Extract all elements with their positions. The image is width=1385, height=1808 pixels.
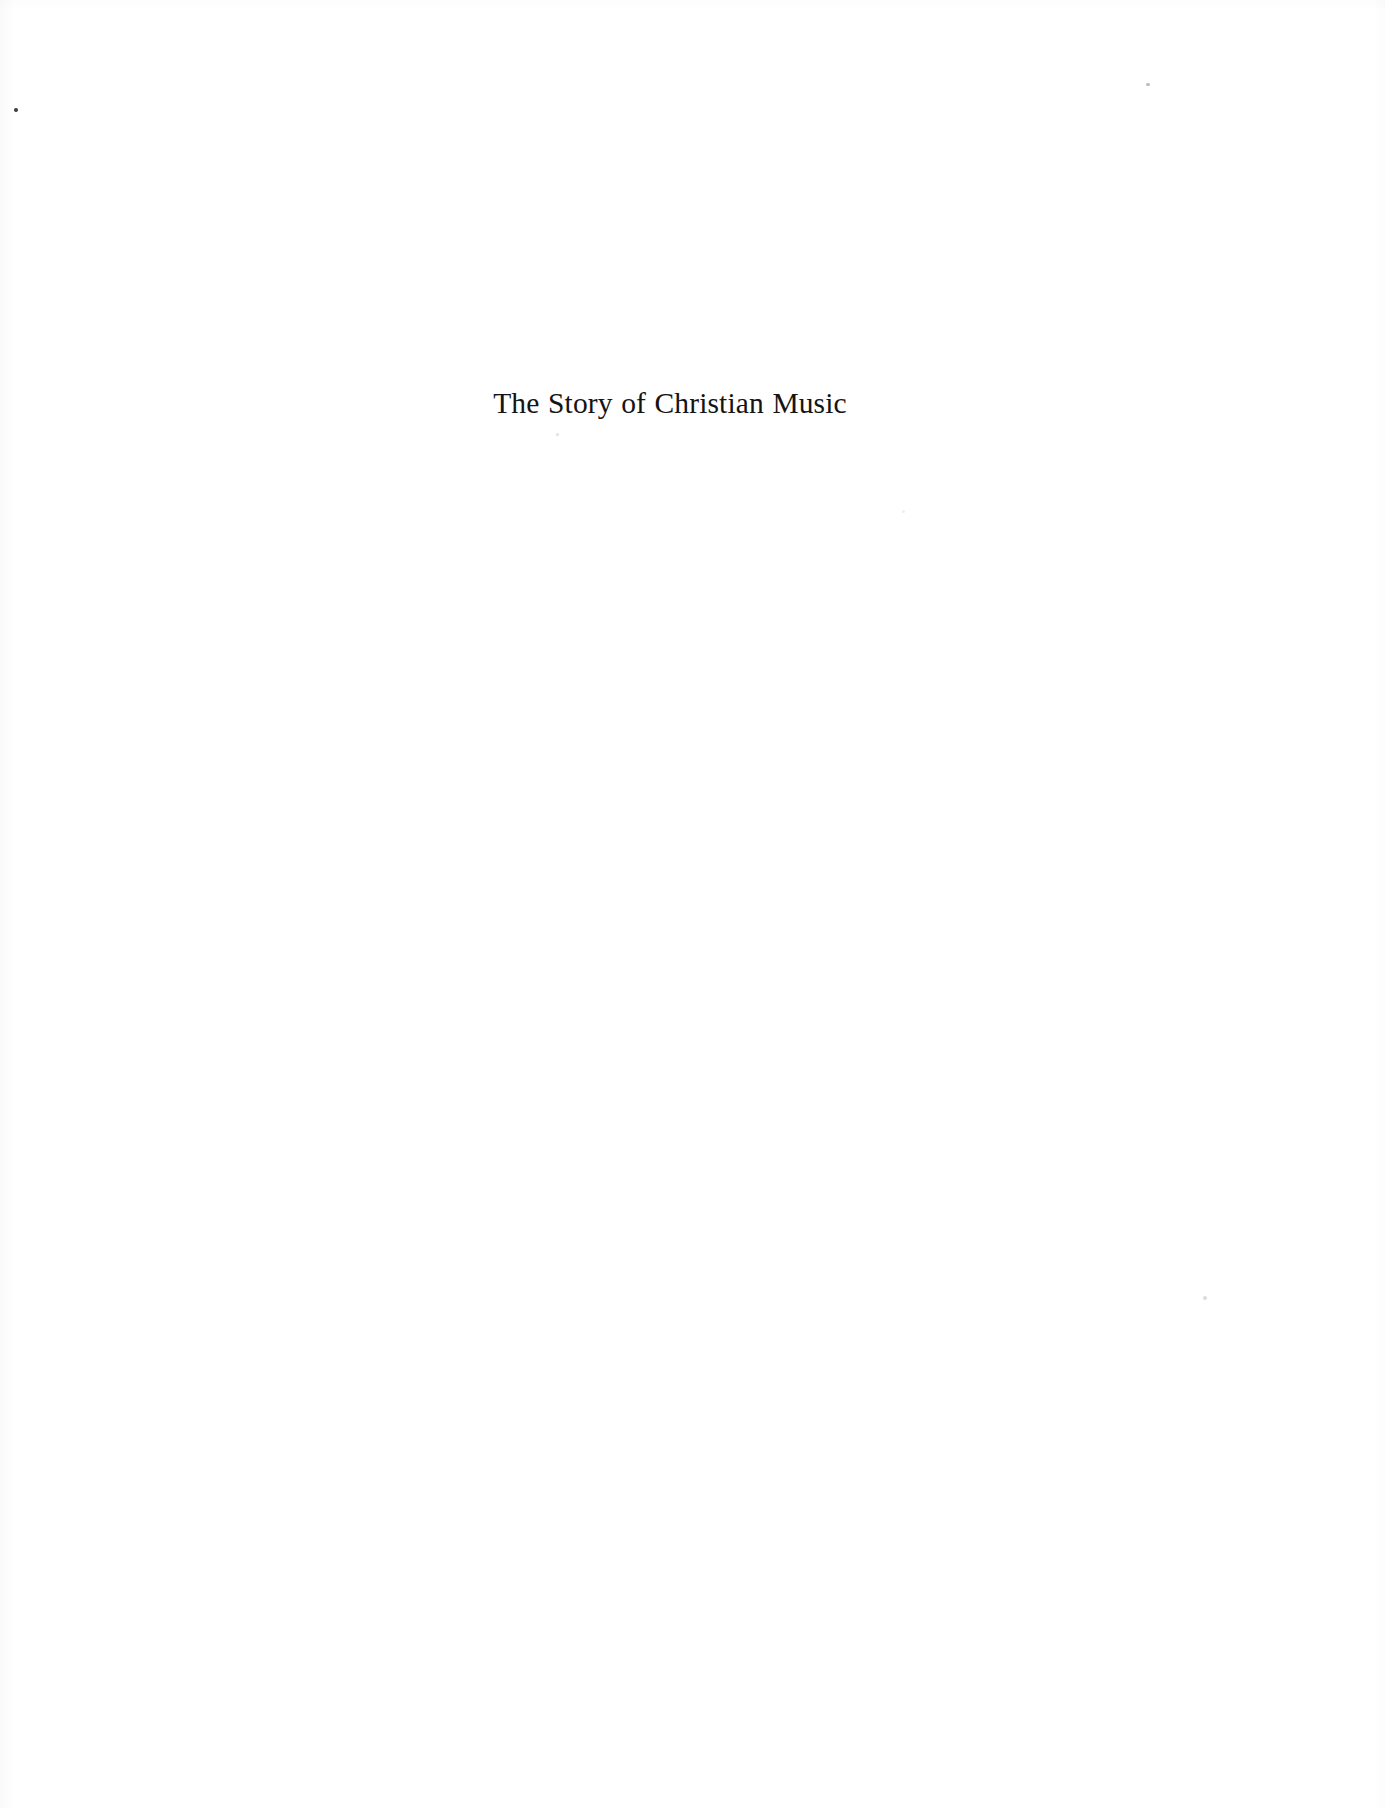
scan-speck-icon [14, 108, 18, 112]
scan-speck-icon [556, 433, 559, 436]
half-title-block: The Story of Christian Music [0, 386, 1340, 421]
scan-speck-icon [1203, 1296, 1207, 1300]
scanned-page: The Story of Christian Music [0, 0, 1385, 1808]
scan-speck-icon [1146, 83, 1150, 86]
scan-speck-icon [902, 510, 905, 513]
scan-shadow-right [1373, 0, 1385, 1808]
scan-shadow-left [0, 0, 14, 1808]
page-title: The Story of Christian Music [493, 386, 847, 421]
scan-shadow-top [0, 0, 1385, 10]
